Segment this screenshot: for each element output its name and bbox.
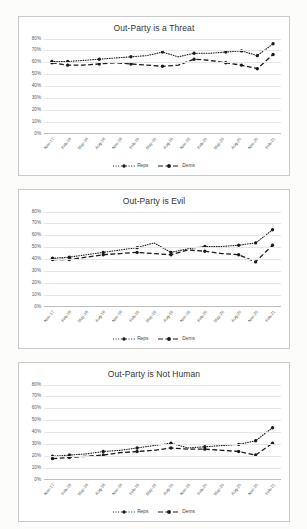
legend-item-reps[interactable]: Reps: [113, 509, 148, 515]
data-point-marker: [203, 447, 206, 450]
x-axis-tick-label: Nov-17: [44, 483, 56, 496]
x-axis-tick-label: May-20: [213, 483, 225, 497]
y-axis: 80%70%60%50%40%30%20%10%0%: [21, 385, 43, 480]
y-axis-tick-label: 0%: [34, 477, 41, 482]
dems-line-icon: [158, 163, 180, 169]
x-axis-tick-label: Aug-20: [230, 137, 242, 150]
data-point-marker: [192, 57, 195, 60]
data-point-marker: [240, 63, 243, 66]
x-axis-tick-label: Feb-20: [197, 483, 208, 496]
gridline: [44, 295, 281, 296]
y-axis-tick-label: 30%: [32, 442, 41, 447]
y-axis-tick-label: 70%: [32, 394, 41, 399]
data-point-marker: [271, 52, 274, 55]
legend-label-dems: Dems: [182, 510, 195, 515]
data-point-marker: [256, 66, 259, 69]
x-axis-tick-label: Feb-20: [197, 310, 208, 323]
legend-item-dems[interactable]: Dems: [158, 336, 195, 342]
dems-line-icon: [158, 509, 180, 515]
x-axis-tick-label: May-18: [78, 137, 90, 151]
data-point-marker: [98, 57, 101, 60]
x-axis-tick-label: Feb-18: [61, 483, 72, 496]
y-axis: 80%70%60%50%40%30%20%10%0%: [21, 212, 43, 307]
x-axis-tick-label: Nov-20: [247, 137, 259, 150]
data-point-marker: [203, 249, 206, 252]
x-axis-line: [44, 306, 281, 307]
y-axis-tick-label: 40%: [32, 84, 41, 89]
x-axis-line: [44, 479, 281, 480]
gridline: [44, 283, 281, 284]
y-axis-tick-label: 30%: [32, 96, 41, 101]
gridline: [44, 74, 281, 75]
chart-card-not-human: Out-Party is Not Human 80%70%60%50%40%30…: [18, 362, 290, 522]
gridline: [44, 271, 281, 272]
x-axis-tick-label: Nov-18: [112, 483, 124, 496]
legend-label-reps: Reps: [137, 510, 148, 515]
data-point-marker: [254, 260, 257, 263]
chart-legend: Reps Dems: [19, 509, 289, 515]
y-axis-tick-label: 0%: [34, 304, 41, 309]
data-point-marker: [66, 63, 69, 66]
y-axis-tick-label: 50%: [32, 72, 41, 77]
reps-line-icon: [113, 336, 135, 342]
y-axis: 80%70%60%50%40%30%20%10%0%: [21, 39, 43, 134]
chart-card-evil: Out-Party is Evil 80%70%60%50%40%30%20%1…: [18, 189, 290, 349]
y-axis-tick-label: 60%: [32, 406, 41, 411]
y-axis-tick-label: 20%: [32, 280, 41, 285]
legend-item-dems[interactable]: Dems: [158, 163, 195, 169]
x-axis-tick-label: May-19: [145, 137, 157, 151]
data-point-marker: [254, 241, 257, 244]
y-axis-tick-label: 70%: [32, 221, 41, 226]
legend-item-reps[interactable]: Reps: [113, 163, 148, 169]
y-axis-tick-label: 80%: [32, 209, 41, 214]
x-axis-tick-label: Aug-18: [95, 137, 107, 150]
data-point-marker: [271, 426, 274, 429]
data-point-marker: [135, 446, 138, 449]
y-axis-tick-label: 30%: [32, 269, 41, 274]
x-axis-tick-label: Feb-19: [129, 137, 140, 150]
legend-item-reps[interactable]: Reps: [113, 336, 148, 342]
gridline: [44, 98, 281, 99]
x-axis-tick-label: May-18: [78, 310, 90, 324]
x-axis-tick-label: Nov-19: [180, 310, 192, 323]
data-point-marker: [135, 250, 138, 253]
x-axis-tick-label: Nov-19: [180, 137, 192, 150]
chart-title: Out-Party is a Threat: [19, 17, 289, 33]
chart-title: Out-Party is Not Human: [19, 363, 289, 379]
data-point-marker: [271, 42, 274, 45]
gridline: [44, 420, 281, 421]
gridline: [44, 432, 281, 433]
data-point-marker: [51, 456, 54, 459]
y-axis-tick-label: 20%: [32, 107, 41, 112]
gridline: [44, 396, 281, 397]
gridline: [44, 122, 281, 123]
data-point-marker: [237, 449, 240, 452]
plot-wrapper: 80%70%60%50%40%30%20%10%0% Nov-17Feb-18M…: [21, 212, 281, 307]
y-axis-tick-label: 40%: [32, 257, 41, 262]
reps-line-icon: [113, 509, 135, 515]
plot-area: [44, 212, 281, 307]
x-axis-tick-label: Aug-20: [230, 483, 242, 496]
x-axis-tick-label: Aug-19: [163, 137, 175, 150]
chart-title: Out-Party is Evil: [19, 190, 289, 206]
x-axis-tick-label: Aug-20: [230, 310, 242, 323]
x-axis-tick-label: Feb-21: [264, 137, 275, 150]
legend-label-dems: Dems: [182, 164, 195, 169]
gridline: [44, 86, 281, 87]
x-axis-tick-label: Nov-20: [247, 310, 259, 323]
y-axis-tick-label: 10%: [32, 292, 41, 297]
legend-label-dems: Dems: [182, 337, 195, 342]
plot-area: [44, 39, 281, 134]
data-point-marker: [256, 53, 259, 56]
data-point-marker: [169, 446, 172, 449]
x-axis-tick-label: Aug-18: [95, 310, 107, 323]
x-axis-tick-label: Aug-19: [163, 483, 175, 496]
data-point-marker: [254, 439, 257, 442]
legend-item-dems[interactable]: Dems: [158, 509, 195, 515]
data-point-marker: [129, 55, 132, 58]
plot-wrapper: 80%70%60%50%40%30%20%10%0% Nov-17Feb-18M…: [21, 385, 281, 480]
y-axis-tick-label: 20%: [32, 453, 41, 458]
data-point-marker: [169, 253, 172, 256]
legend-label-reps: Reps: [137, 164, 148, 169]
x-axis-tick-label: Nov-18: [112, 310, 124, 323]
